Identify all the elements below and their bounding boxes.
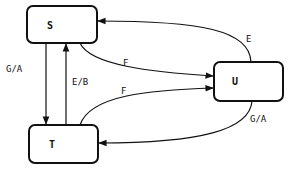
node-u-label: U (232, 76, 238, 87)
edge-t-to-s-label: E/B (72, 77, 88, 87)
edge-u-to-t-label: G/A (250, 114, 267, 124)
node-s[interactable]: S (27, 6, 97, 43)
node-t[interactable]: T (29, 125, 98, 163)
edge-u-to-s: E (98, 21, 251, 62)
edge-t-to-s: E/B (66, 44, 88, 125)
edge-u-to-t: G/A (99, 101, 267, 143)
node-t-label: T (49, 139, 55, 150)
node-s-label: S (47, 20, 53, 31)
edge-s-to-u: F (80, 43, 213, 76)
edge-s-to-t: G/A (6, 43, 46, 124)
node-u[interactable]: U (214, 62, 283, 101)
edge-s-to-t-label: G/A (6, 64, 23, 74)
edge-u-to-s-label: E (246, 34, 251, 44)
state-diagram: S U T G/A E/B F F E G/A (0, 0, 291, 170)
edge-t-to-u-label: F (121, 86, 126, 96)
edge-t-to-u: F (80, 86, 213, 125)
edge-s-to-u-label: F (123, 58, 128, 68)
